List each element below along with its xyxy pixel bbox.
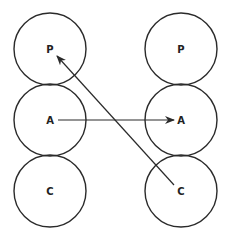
left-node-p-label: P	[46, 44, 53, 55]
diagram-canvas: P A C P A C	[0, 0, 228, 241]
left-node-c-label: C	[46, 186, 53, 197]
right-node-a-label: A	[177, 115, 185, 126]
right-node-p-label: P	[177, 44, 184, 55]
left-node-a-label: A	[46, 115, 54, 126]
right-node-c-label: C	[177, 186, 184, 197]
